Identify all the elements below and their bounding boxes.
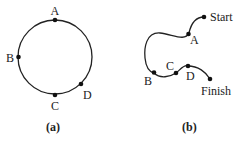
point-b-label: B xyxy=(144,74,152,88)
point-c-label: C xyxy=(51,99,59,113)
point-d-dot xyxy=(79,82,84,87)
point-c-dot xyxy=(174,71,179,76)
point-c-label: C xyxy=(166,59,174,73)
start-dot xyxy=(202,15,207,20)
point-b-dot xyxy=(16,55,21,60)
figure-b-caption: (b) xyxy=(182,120,197,134)
figure-a: A B C D (a) xyxy=(6,4,92,134)
point-c-dot xyxy=(53,93,58,98)
point-d-label: D xyxy=(83,88,92,102)
finish-dot xyxy=(208,77,213,82)
point-b-label: B xyxy=(6,51,14,65)
figure-a-caption: (a) xyxy=(46,120,60,134)
point-a-dot xyxy=(53,18,58,23)
finish-label: Finish xyxy=(201,84,231,98)
winding-path xyxy=(145,17,210,79)
point-a-label: A xyxy=(190,33,199,47)
point-a-label: A xyxy=(51,4,60,18)
point-b-dot xyxy=(152,70,157,75)
figure-b: Start A B C D Finish (b) xyxy=(144,10,233,134)
path-diagrams: A B C D (a) Start A B C D Finish (b) xyxy=(0,0,237,143)
point-d-dot xyxy=(186,64,191,69)
start-label: Start xyxy=(210,10,233,24)
point-d-label: D xyxy=(186,69,195,83)
